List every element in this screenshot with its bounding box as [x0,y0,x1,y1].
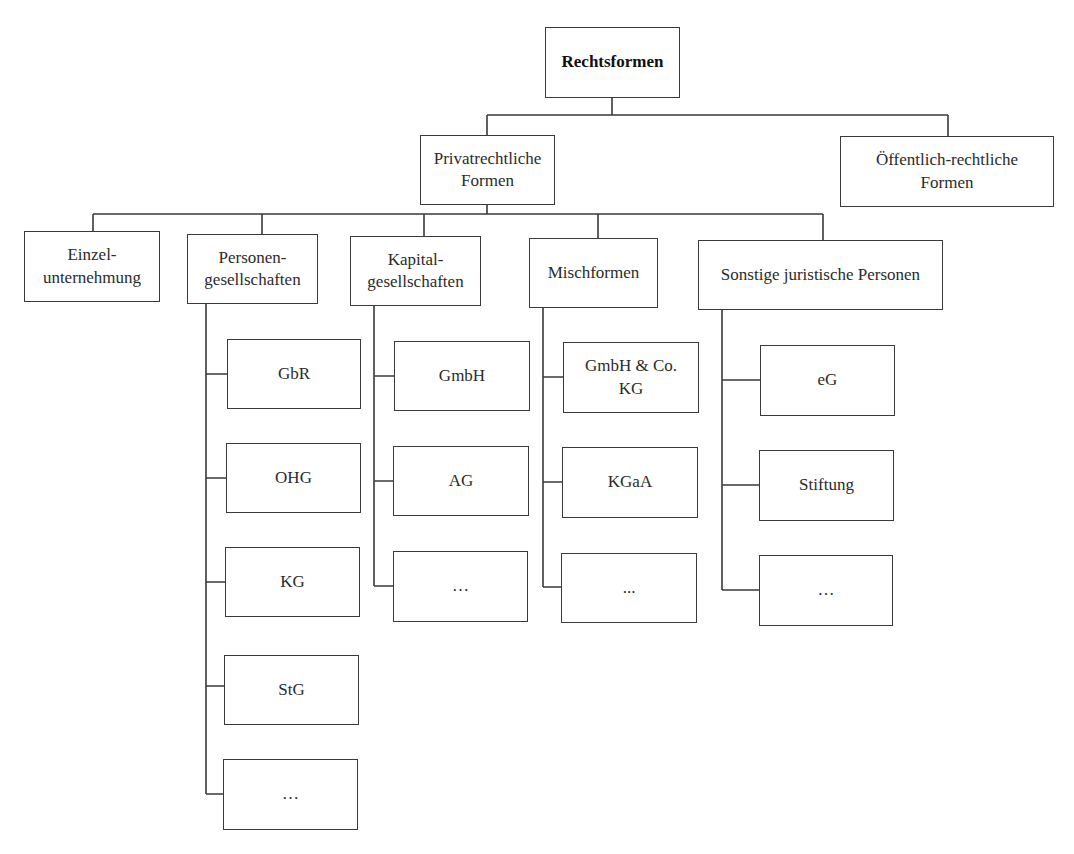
node-label: Personen- gesellschaften [204,247,300,292]
node-personengesellschaften: Personen- gesellschaften [187,234,318,304]
node-label: StG [278,679,304,701]
node-gbr: GbR [227,339,361,409]
node-personen-more: … [223,759,358,830]
node-label: Privatrechtliche Formen [434,148,542,193]
connector-lines [0,0,1074,854]
node-oeffentlich-rechtliche-formen: Öffentlich-rechtliche Formen [840,136,1054,207]
node-label: … [452,575,469,597]
node-misch-more: ... [561,553,697,623]
node-label: Kapital- gesellschaften [367,249,463,294]
node-stg: StG [224,655,359,725]
node-sonstige-juristische-personen: Sonstige juristische Personen [698,240,943,310]
node-kgaa: KGaA [562,447,698,518]
node-label: Öffentlich-rechtliche Formen [876,149,1018,194]
node-ohg: OHG [226,443,361,513]
node-kg: KG [225,547,360,617]
node-label: KGaA [608,471,652,493]
node-kapital-more: … [393,551,528,622]
node-label: GbR [278,363,310,385]
node-label: Einzel- unternehmung [43,244,141,289]
node-label: Rechtsformen [562,51,664,73]
node-label: GmbH & Co. KG [585,355,677,400]
node-label: Mischformen [548,262,640,284]
node-sonstige-more: … [759,555,893,626]
node-privatrechtliche-formen: Privatrechtliche Formen [420,135,555,205]
node-einzelunternehmung: Einzel- unternehmung [24,231,160,302]
node-mischformen: Mischformen [529,238,658,308]
node-kapitalgesellschaften: Kapital- gesellschaften [350,236,481,306]
node-rechtsformen: Rechtsformen [545,27,680,98]
node-label: eG [818,369,838,391]
node-label: ... [623,577,636,599]
node-label: … [818,579,835,601]
node-ag: AG [393,446,529,516]
node-eg: eG [760,345,895,416]
node-label: KG [280,571,305,593]
node-label: OHG [275,467,312,489]
node-gmbh: GmbH [394,341,530,411]
node-gmbh-co-kg: GmbH & Co. KG [563,342,699,413]
node-label: GmbH [439,365,485,387]
node-label: … [282,783,299,805]
node-stiftung: Stiftung [759,450,894,521]
node-label: Sonstige juristische Personen [721,264,920,286]
node-label: Stiftung [799,474,854,496]
node-label: AG [449,470,474,492]
